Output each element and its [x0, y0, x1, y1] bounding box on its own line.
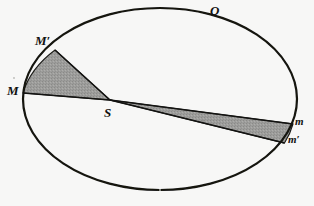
page-speck: [159, 189, 161, 191]
label-m-prime: m′: [288, 134, 300, 145]
label-M-prime: M′: [35, 34, 50, 47]
label-M: M: [7, 84, 19, 97]
sector-M-S-Mprime: [23, 50, 110, 100]
orbit-ellipse: [23, 8, 297, 190]
orbit-diagram-canvas: [0, 0, 314, 206]
page-speck: [202, 120, 204, 122]
label-S: S: [104, 106, 111, 119]
orbit-diagram-figure: O M′ M S m m′: [0, 0, 314, 206]
page-speck: [13, 77, 15, 79]
label-m: m: [295, 116, 304, 127]
label-O: O: [210, 4, 219, 17]
